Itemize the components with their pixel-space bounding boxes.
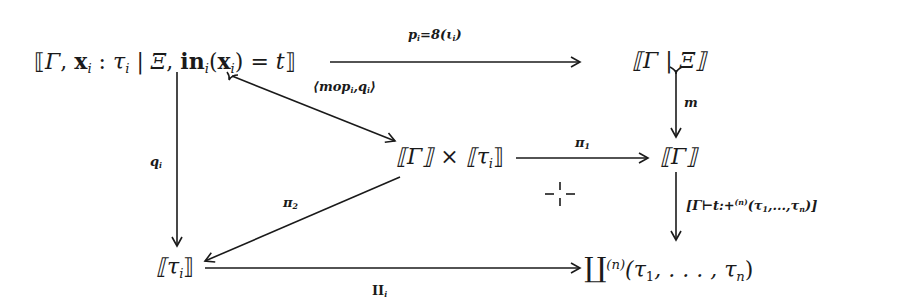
node-top-right: ⟦Γ | Ξ⟧	[632, 50, 706, 72]
label-m-arrow: m	[684, 96, 698, 109]
bracket-close: ⟧	[285, 49, 296, 74]
tau: τ	[113, 49, 125, 74]
pullback-marker-icon	[543, 180, 577, 208]
var-x: x	[74, 48, 87, 74]
sup: (n)	[606, 257, 625, 272]
xi: Ξ	[151, 49, 166, 74]
in-op: in	[180, 48, 204, 74]
gamma-bracket: ⟦Γ⟧	[396, 144, 433, 169]
gamma: Γ	[45, 49, 60, 74]
label-q-arrow: qi	[150, 155, 162, 170]
label-top-arrow: pi=8(ιi)	[408, 28, 462, 43]
args: , . . . , τ	[654, 257, 736, 282]
node-middle-left: ⟦Γ⟧ × ⟦τi⟧	[396, 146, 504, 170]
comma: ,	[60, 49, 74, 74]
var-x: x	[217, 48, 230, 74]
args: (τ	[625, 257, 646, 282]
times: ×	[433, 144, 465, 169]
node-bottom-left: ⟦τi⟧	[156, 256, 194, 280]
paren: )	[745, 257, 754, 282]
bracket-open: ⟦	[34, 49, 45, 74]
sub: n	[736, 269, 745, 284]
label-mop-arrow: ⟨mopi,qi⟩	[313, 80, 376, 95]
tau-bracket: ⟦τ	[156, 254, 179, 279]
label-pi2-arrow: π2	[283, 196, 298, 211]
equals: =	[243, 49, 275, 74]
bracket-close: ⟧	[183, 254, 194, 279]
node-top-left: ⟦Γ, xi : τi | Ξ, ini(xi) = t⟧	[34, 50, 296, 75]
coproduct-symbol: ∐	[584, 251, 606, 284]
label-coproj-arrow: IIi	[372, 284, 387, 299]
bar: |	[129, 49, 150, 74]
comma: ,	[166, 49, 180, 74]
tau-bracket: ⟦τ	[466, 144, 489, 169]
node-middle-right: ⟦Γ⟧	[660, 146, 697, 168]
arrow-pi2	[205, 177, 400, 261]
colon: :	[92, 49, 113, 74]
var-t: t	[276, 49, 285, 74]
sub: 1	[646, 269, 654, 284]
bracket-close: ⟧	[493, 144, 504, 169]
node-bottom-right: ∐(n)(τ1, . . . , τn)	[584, 254, 753, 283]
label-pi1-arrow: π1	[575, 136, 590, 151]
label-judgement-arrow: [Γ⊢t:+(n)(τ1,...,τn)]	[686, 199, 817, 214]
